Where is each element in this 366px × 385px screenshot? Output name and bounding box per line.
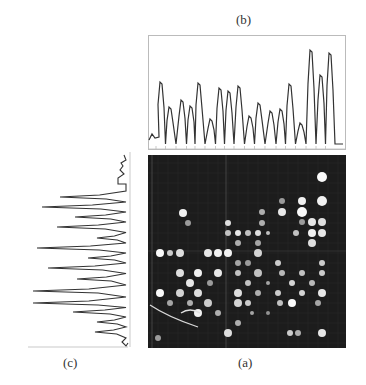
profile-plot-c: [28, 152, 138, 352]
label-c: (c): [63, 355, 77, 371]
microarray-image-a: [148, 155, 346, 348]
profile-plot-b: [148, 35, 346, 150]
label-a: (a): [238, 355, 252, 371]
label-b: (b): [236, 12, 251, 28]
